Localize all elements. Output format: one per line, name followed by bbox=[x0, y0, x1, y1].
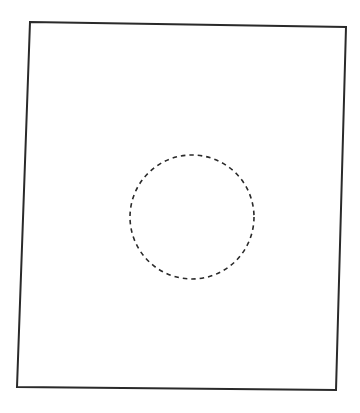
background bbox=[0, 0, 360, 413]
diagram-canvas bbox=[0, 0, 360, 413]
